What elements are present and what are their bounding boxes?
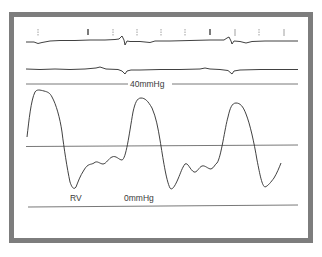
rv-pressure-trace	[27, 90, 281, 189]
chamber-label: RV	[69, 193, 83, 203]
waveform-diagram	[0, 0, 322, 257]
scale-line-0mmhg	[28, 205, 298, 207]
bottom-scale-label: 0mmHg	[123, 193, 155, 203]
reference-midline	[26, 145, 298, 147]
top-scale-label: 40mmHg	[129, 79, 165, 89]
timing-tick-marks	[38, 29, 284, 36]
ecg-lead-1-trace	[26, 36, 298, 45]
ecg-lead-2-trace	[26, 67, 298, 74]
